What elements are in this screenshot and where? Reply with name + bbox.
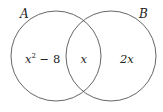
set-b-circle [66,11,156,101]
region-a-only: x2 − 8 [25,52,60,66]
region-b-only: 2x [119,52,134,66]
set-a-label: A [19,7,29,21]
venn-diagram: A B x2 − 8 x 2x [0,0,163,112]
region-intersection: x [81,52,88,66]
set-b-label: B [138,7,148,21]
